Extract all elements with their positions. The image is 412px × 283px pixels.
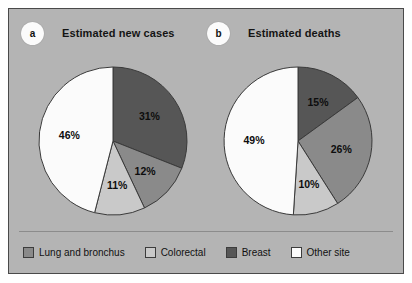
legend-swatch-icon: [23, 247, 34, 258]
panel-header-b: b Estimated deaths: [207, 21, 341, 45]
panel-tag-b: b: [207, 22, 230, 45]
panel-header-a: a Estimated new cases: [21, 21, 175, 45]
pie-svg-a: 31%12%11%46%: [29, 57, 197, 225]
legend-item-breast: Breast: [226, 247, 271, 258]
panel-tag-a: a: [21, 22, 44, 45]
legend-divider: [19, 231, 393, 232]
pie-slice-label: 11%: [107, 179, 128, 191]
legend-swatch-icon: [226, 247, 237, 258]
panel-title-a: Estimated new cases: [62, 27, 175, 39]
legend-label: Breast: [242, 247, 271, 258]
pie-slice-label: 49%: [244, 134, 266, 146]
figure-panel: a Estimated new cases b Estimated deaths…: [8, 8, 404, 274]
legend-swatch-icon: [291, 247, 302, 258]
legend-label: Colorectal: [161, 247, 206, 258]
panel-title-b: Estimated deaths: [248, 27, 341, 39]
legend-label: Other site: [307, 247, 350, 258]
pie-slice-label: 15%: [307, 96, 329, 108]
pie-slice-label: 31%: [139, 110, 161, 122]
legend-label: Lung and bronchus: [39, 247, 125, 258]
pie-slice-label: 46%: [59, 129, 81, 141]
pie-chart-estimated-deaths: 15%26%10%49%: [214, 57, 382, 225]
pie-slice-label: 12%: [135, 165, 157, 177]
pie-svg-b: 15%26%10%49%: [214, 57, 382, 225]
legend-item-colorectal: Colorectal: [145, 247, 206, 258]
pie-slice-label: 10%: [298, 178, 320, 190]
legend-item-other-site: Other site: [291, 247, 350, 258]
pie-chart-estimated-new-cases: 31%12%11%46%: [29, 57, 197, 225]
legend-swatch-icon: [145, 247, 156, 258]
legend-item-lung-and-bronchus: Lung and bronchus: [23, 247, 125, 258]
chart-legend: Lung and bronchus Colorectal Breast Othe…: [23, 241, 393, 263]
pie-slice-label: 26%: [331, 143, 353, 155]
